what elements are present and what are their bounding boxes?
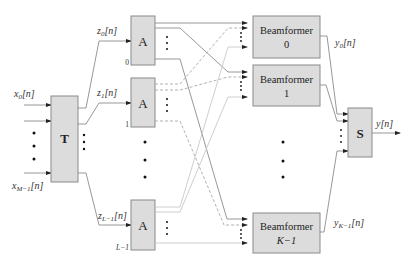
ellipsis-dot <box>282 176 285 179</box>
block-index-L1: L−1 <box>115 243 129 252</box>
a-output-ellipsis <box>166 36 168 235</box>
svg-text:0: 0 <box>284 39 289 50</box>
ellipsis-dot <box>144 176 147 179</box>
input-signals: x0[n] xM−1[n] <box>11 88 51 193</box>
svg-text:Beamformer: Beamformer <box>260 74 314 85</box>
transform-block-label: T <box>60 131 69 146</box>
beamformer-to-sum-connections <box>320 36 348 232</box>
channel-signal-z1: z1[n] <box>96 87 117 100</box>
ellipsis-dot <box>144 159 147 162</box>
beamformer-input-ellipsis <box>240 32 242 239</box>
ellipsis-dot <box>33 145 36 148</box>
transform-block: T <box>51 96 78 182</box>
svg-text:Beamformer: Beamformer <box>260 221 314 232</box>
block-index-1: 1 <box>125 120 129 129</box>
input-label-xM1: xM−1[n] <box>11 180 43 193</box>
ellipsis-dot <box>83 141 85 143</box>
svg-text:A: A <box>138 96 148 111</box>
a-to-beamformer-connections <box>155 23 247 243</box>
beamformer-output-yK1: yK−1[n] <box>333 217 364 230</box>
beamformer-block-diagram: x0[n] xM−1[n] T z0[n] z1[n] zL−1[n] A 0 … <box>0 0 412 265</box>
beamformer-0: Beamformer 0 <box>253 16 320 58</box>
ellipsis-dot <box>282 160 285 163</box>
ellipsis-dot <box>282 141 285 144</box>
ellipsis-dot <box>33 132 36 135</box>
ellipsis-dot <box>83 134 85 136</box>
analysis-block-L1: A L−1 <box>115 200 155 252</box>
input-label-x0: x0[n] <box>13 88 35 101</box>
channel-signal-zL1: zL−1[n] <box>97 210 127 223</box>
channel-signal-z0: z0[n] <box>96 25 117 38</box>
block-index-0: 0 <box>125 58 129 67</box>
sum-block: S <box>348 108 372 157</box>
ellipsis-dot <box>144 141 147 144</box>
svg-text:A: A <box>138 218 148 233</box>
svg-text:1: 1 <box>284 88 289 99</box>
svg-text:Beamformer: Beamformer <box>260 25 314 36</box>
svg-text:S: S <box>356 126 363 141</box>
output-label: y[n] <box>375 118 393 129</box>
analysis-block-0: A 0 <box>125 16 155 67</box>
t-to-a-connections <box>78 41 131 225</box>
svg-text:K−1: K−1 <box>276 235 296 246</box>
ellipsis-dot <box>33 158 36 161</box>
beamformer-K1: Beamformer K−1 <box>253 213 320 253</box>
svg-text:A: A <box>138 34 148 49</box>
beamformer-1: Beamformer 1 <box>253 65 320 106</box>
analysis-block-1: A 1 <box>125 78 155 129</box>
beamformer-output-y0: y0[n] <box>334 37 356 50</box>
ellipsis-dot <box>83 148 85 150</box>
